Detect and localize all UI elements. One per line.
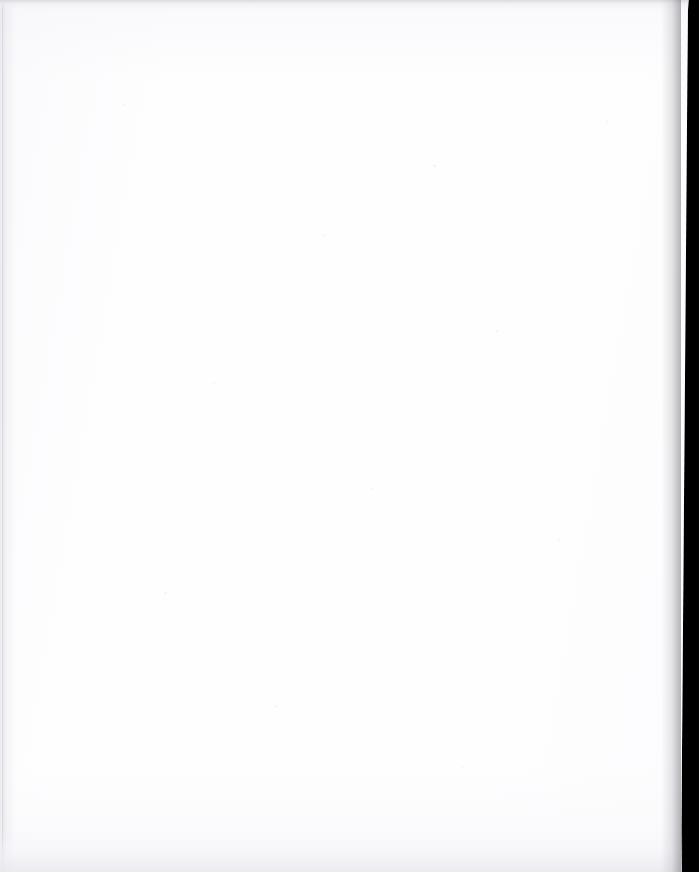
page-sheet <box>0 0 690 872</box>
page-content-area <box>0 0 690 872</box>
scanned-page-canvas <box>0 0 699 872</box>
